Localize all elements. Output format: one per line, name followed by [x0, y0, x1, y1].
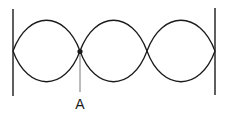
point-a-label: A — [75, 96, 85, 112]
standing-wave-diagram: A — [0, 0, 228, 113]
wave-lower-envelope — [13, 51, 215, 82]
point-a-dot — [77, 49, 82, 54]
wave-upper-envelope — [13, 20, 215, 51]
